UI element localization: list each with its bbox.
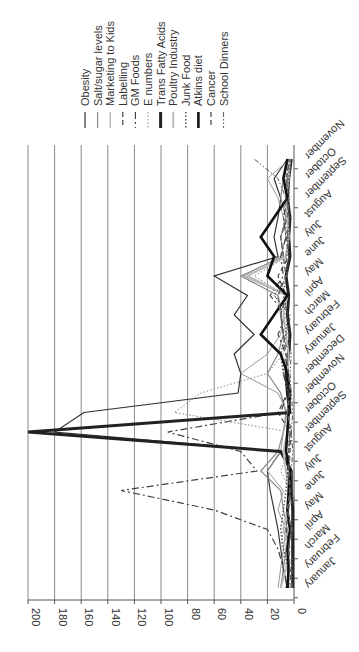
month-label: May (302, 256, 326, 280)
value-axis-tick-labels: 020406080100120140160180200 (30, 608, 308, 626)
month-label: June (303, 234, 328, 259)
legend-label: Labelling (117, 62, 129, 106)
value-tick-label: 40 (243, 608, 255, 620)
legend-label: Cancer (205, 70, 217, 106)
legend-label: Junk Food (180, 55, 192, 106)
value-tick-label: 140 (110, 608, 122, 626)
legend-label: GM Foods (129, 54, 141, 106)
value-tick-label: 20 (269, 608, 281, 620)
series-line-salt-sugar-levels (241, 159, 289, 588)
legend-label: School Dinners (218, 31, 230, 106)
axes (28, 145, 298, 604)
legend-label: Marketing to Kids (104, 21, 116, 106)
series-line-gm-foods (121, 159, 290, 588)
data-series (28, 159, 293, 588)
legend-label: Atkins diet (192, 55, 204, 106)
legend: ObesitySalt/sugar levelsMarketing to Kid… (79, 21, 230, 128)
value-tick-label: 160 (83, 608, 95, 626)
series-line-marketing-to-kids (241, 159, 290, 588)
value-tick-label: 60 (216, 608, 228, 620)
month-axis-tick-labels: JanuaryFebruaryMarchAprilMayJuneJulyAugu… (302, 118, 349, 592)
month-label: May (302, 490, 326, 514)
rotated-line-chart: 020406080100120140160180200 JanuaryFebru… (0, 0, 359, 652)
legend-label: E numbers (142, 52, 154, 106)
gridlines (28, 145, 267, 600)
month-label: June (303, 468, 328, 493)
legend-label: Trans Fatty Acids (155, 21, 167, 106)
value-tick-label: 120 (136, 608, 148, 626)
legend-label: Poultry Industry (167, 29, 179, 106)
series-line-e-numbers (174, 159, 291, 588)
legend-label: Salt/sugar levels (92, 25, 104, 106)
value-tick-label: 80 (190, 608, 202, 620)
legend-label: Obesity (79, 68, 91, 106)
value-tick-label: 100 (163, 608, 175, 626)
value-tick-label: 0 (296, 608, 308, 614)
value-tick-label: 180 (57, 608, 69, 626)
value-tick-label: 200 (30, 608, 42, 626)
